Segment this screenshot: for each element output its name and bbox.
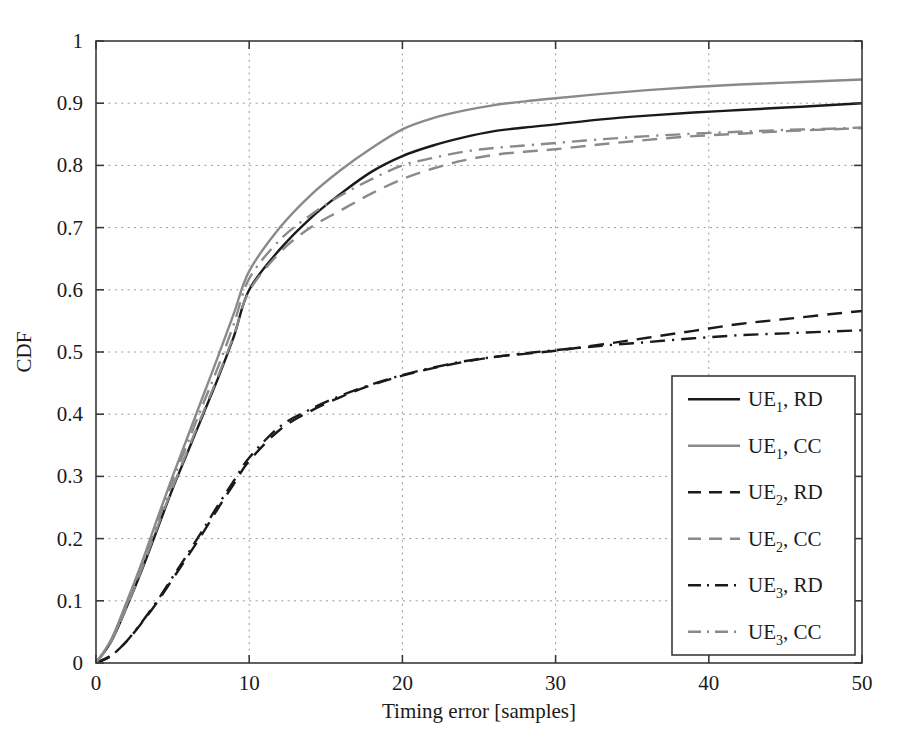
legend-item-label: UE2, CC bbox=[748, 527, 822, 555]
y-axis-title: CDF bbox=[12, 332, 36, 373]
y-tick-label: 0.4 bbox=[57, 402, 84, 426]
x-axis-title: Timing error [samples] bbox=[382, 699, 576, 723]
x-tick-label: 40 bbox=[698, 671, 719, 695]
legend-box bbox=[672, 376, 855, 655]
y-tick-label: 0 bbox=[73, 651, 84, 675]
chart-canvas: 00.10.20.30.40.50.60.70.80.9101020304050… bbox=[0, 0, 901, 751]
chart-legend[interactable]: UE1, RDUE1, CCUE2, RDUE2, CCUE3, RDUE3, … bbox=[672, 376, 855, 655]
y-tick-label: 1 bbox=[73, 29, 84, 53]
legend-item-label: UE3, CC bbox=[748, 620, 822, 648]
y-tick-label: 0.2 bbox=[57, 527, 83, 551]
x-tick-label: 30 bbox=[545, 671, 566, 695]
x-tick-label: 20 bbox=[392, 671, 413, 695]
y-tick-label: 0.6 bbox=[57, 278, 83, 302]
legend-item-label: UE1, RD bbox=[748, 387, 823, 415]
cdf-chart-figure: 00.10.20.30.40.50.60.70.80.9101020304050… bbox=[0, 0, 901, 751]
y-tick-label: 0.9 bbox=[57, 91, 83, 115]
x-tick-label: 50 bbox=[852, 671, 873, 695]
legend-item-label: UE2, RD bbox=[748, 480, 823, 508]
y-tick-label: 0.5 bbox=[57, 340, 83, 364]
y-tick-label: 0.3 bbox=[57, 464, 83, 488]
x-tick-label: 0 bbox=[91, 671, 102, 695]
y-tick-label: 0.8 bbox=[57, 153, 83, 177]
x-tick-label: 10 bbox=[239, 671, 260, 695]
y-tick-label: 0.7 bbox=[57, 216, 83, 240]
legend-item-label: UE1, CC bbox=[748, 434, 822, 462]
legend-item-label: UE3, RD bbox=[748, 573, 823, 601]
y-tick-label: 0.1 bbox=[57, 589, 83, 613]
